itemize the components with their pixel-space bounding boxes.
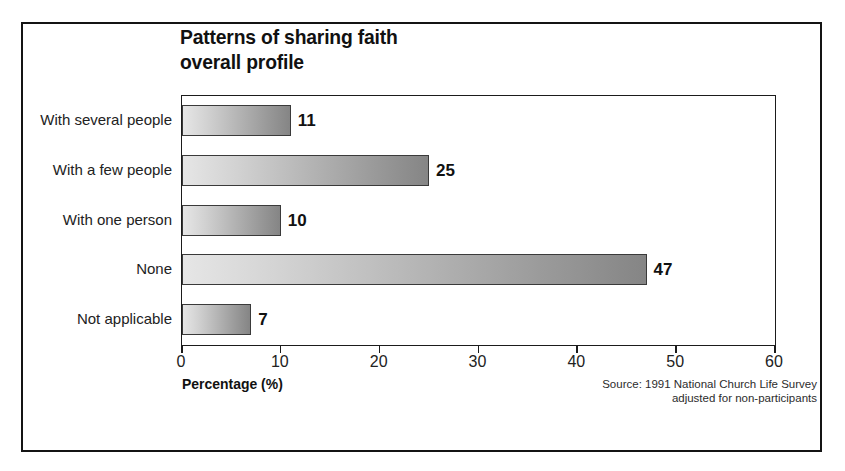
x-tick-label: 60 — [765, 353, 783, 371]
bar-row: 10 — [182, 196, 775, 246]
x-axis-tick-marks — [181, 346, 777, 353]
x-tick-label: 0 — [177, 353, 186, 371]
bar-value-label: 47 — [647, 254, 673, 285]
source-note: Source: 1991 National Church Life Survey… — [602, 377, 817, 405]
bar-row: 11 — [182, 96, 775, 146]
category-axis: With several peopleWith a few peopleWith… — [20, 95, 172, 344]
x-tick-mark — [478, 346, 480, 353]
x-tick-label: 30 — [469, 353, 487, 371]
bar-value-label: 25 — [429, 155, 455, 186]
x-tick-label: 40 — [567, 353, 585, 371]
bar[interactable] — [182, 254, 647, 285]
chart-title: Patterns of sharing faith overall profil… — [180, 24, 576, 74]
bar-value-label: 7 — [251, 304, 267, 335]
bar[interactable] — [182, 155, 429, 186]
x-tick-label: 10 — [271, 353, 289, 371]
x-tick-mark — [379, 346, 381, 353]
x-axis-tick-labels: 0102030405060 — [181, 353, 777, 373]
x-tick-mark — [181, 346, 183, 353]
category-label: Not applicable — [20, 294, 172, 344]
category-label: With a few people — [20, 145, 172, 195]
x-tick-mark — [774, 346, 776, 353]
category-label: With several people — [20, 95, 172, 145]
bar[interactable] — [182, 304, 251, 335]
x-tick-mark — [280, 346, 282, 353]
x-tick-label: 20 — [370, 353, 388, 371]
x-tick-label: 50 — [666, 353, 684, 371]
bar-value-label: 10 — [281, 205, 307, 236]
x-axis-title: Percentage (%) — [182, 375, 283, 392]
plot-area: 112510477 — [181, 95, 776, 346]
category-label: With one person — [20, 195, 172, 245]
category-label: None — [20, 244, 172, 294]
bar-value-label: 11 — [291, 105, 316, 136]
bar[interactable] — [182, 105, 291, 136]
x-tick-mark — [576, 346, 578, 353]
bar-row: 7 — [182, 295, 775, 345]
bar[interactable] — [182, 205, 281, 236]
bar-row: 47 — [182, 245, 775, 295]
x-tick-mark — [675, 346, 677, 353]
bar-row: 25 — [182, 146, 775, 196]
